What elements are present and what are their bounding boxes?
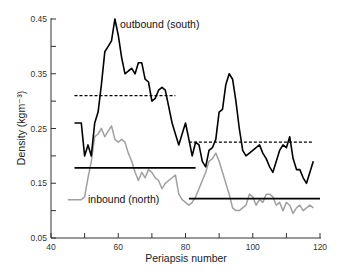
x-ticks: 406080100120 — [46, 233, 327, 252]
x-tick-label: 100 — [246, 242, 260, 252]
density-chart: 0.050.150.250.350.45 406080100120 Periap… — [0, 0, 339, 278]
x-axis-label: Periapsis number — [145, 252, 227, 264]
y-axis-label: Density (kgm⁻³) — [15, 91, 27, 165]
y-tick-label: 0.15 — [30, 178, 47, 188]
outbound-annotation: outbound (south) — [120, 18, 199, 30]
axes: 0.050.150.250.350.45 406080100120 — [30, 14, 327, 252]
inbound-annotation: inbound (north) — [88, 193, 159, 205]
x-tick-label: 40 — [46, 242, 56, 252]
y-tick-label: 0.35 — [30, 69, 47, 79]
y-tick-label: 0.45 — [30, 14, 47, 24]
series-line-outbound-south- — [75, 19, 314, 183]
x-tick-label: 60 — [114, 242, 124, 252]
y-tick-label: 0.05 — [30, 233, 47, 243]
y-tick-label: 0.25 — [30, 124, 47, 134]
y-ticks: 0.050.150.250.350.45 — [30, 14, 56, 243]
x-tick-label: 120 — [313, 242, 327, 252]
plot-area — [68, 19, 320, 213]
x-tick-label: 80 — [181, 242, 191, 252]
